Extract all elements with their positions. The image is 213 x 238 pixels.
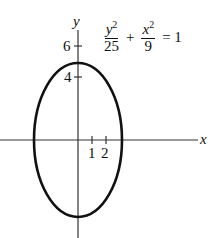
y-tick-label-4: 4 [64,70,72,85]
plus-sign: + [126,29,134,46]
fraction-x: x2 9 [141,20,155,55]
y-axis-label: y [73,14,80,29]
x-tick-label-2: 2 [101,146,109,161]
equals-one: = 1 [162,29,182,46]
y-tick-label-6: 6 [63,39,71,54]
x-tick-label-1: 1 [88,146,96,161]
ellipse-graph: y x 6 4 1 2 y2 25 + x2 9 = 1 [0,0,213,238]
fraction-y: y2 25 [104,20,119,55]
ellipse-equation: y2 25 + x2 9 = 1 [100,20,185,55]
x-axis-label: x [200,132,207,147]
